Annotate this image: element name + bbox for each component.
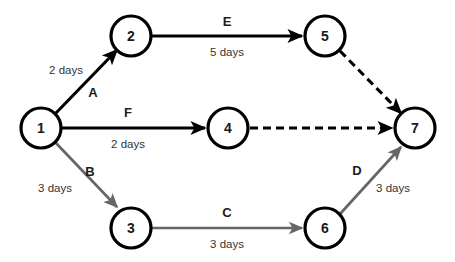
node-1-label: 1 — [37, 120, 45, 136]
node-3-label: 3 — [127, 220, 135, 236]
edge-f-duration-label: 2 days — [111, 138, 145, 150]
edge-a-duration-label: 2 days — [49, 64, 83, 76]
node-2-label: 2 — [127, 28, 135, 44]
edge-d: D 3 days — [340, 147, 410, 214]
edge-b-duration-label: 3 days — [38, 182, 72, 194]
edge-c-duration-label: 3 days — [210, 238, 244, 250]
edge-dummy-5-7 — [340, 51, 401, 113]
node-5-label: 5 — [321, 28, 329, 44]
node-3[interactable]: 3 — [111, 208, 151, 248]
edge-f: F 2 days — [62, 105, 205, 151]
edge-a-code-label: A — [88, 85, 98, 100]
network-diagram-canvas: 2 days A 3 days B F 2 days E 5 days C 3 … — [0, 0, 455, 262]
edge-b-code-label: B — [85, 164, 94, 179]
edge-f-code-label: F — [124, 105, 132, 120]
network-diagram-svg: 2 days A 3 days B F 2 days E 5 days C 3 … — [0, 0, 455, 262]
edge-c-code-label: C — [222, 205, 232, 220]
edge-dummy-5-7-line — [340, 51, 401, 113]
node-7-label: 7 — [411, 120, 419, 136]
edge-b: 3 days B — [38, 142, 117, 207]
node-4[interactable]: 4 — [208, 108, 248, 148]
edge-c: C 3 days — [152, 205, 302, 251]
node-6[interactable]: 6 — [305, 208, 345, 248]
edge-e: E 5 days — [152, 14, 302, 59]
node-2[interactable]: 2 — [111, 16, 151, 56]
edge-d-code-label: D — [352, 163, 361, 178]
edge-e-duration-label: 5 days — [210, 46, 244, 58]
node-5[interactable]: 5 — [305, 16, 345, 56]
edge-a: 2 days A — [49, 50, 117, 114]
edge-e-code-label: E — [223, 14, 232, 29]
node-1[interactable]: 1 — [21, 108, 61, 148]
edge-d-line — [340, 147, 401, 214]
edge-a-line — [55, 50, 117, 114]
edge-d-duration-label: 3 days — [376, 182, 410, 194]
node-6-label: 6 — [321, 220, 329, 236]
node-4-label: 4 — [224, 120, 232, 136]
node-7[interactable]: 7 — [395, 108, 435, 148]
